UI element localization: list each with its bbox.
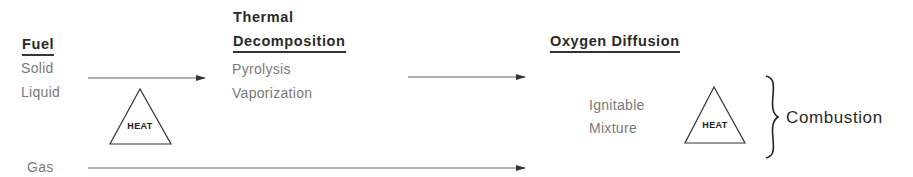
combustion-label: Combustion — [786, 109, 883, 126]
fuel-item-liquid: Liquid — [21, 85, 60, 99]
heat-label: HEAT — [127, 121, 153, 131]
fuel-item-gas: Gas — [27, 160, 54, 174]
decomposition-item-pyrolysis: Pyrolysis — [232, 62, 291, 76]
heat-label: HEAT — [702, 120, 728, 130]
heat-triangle-icon: HEAT — [685, 87, 745, 143]
diffusion-item-ignitable: Ignitable — [589, 98, 645, 112]
heat-triangle-icon: HEAT — [110, 89, 171, 144]
diagram-graphics: HEAT HEAT — [0, 0, 913, 177]
decomposition-heading-line2: Decomposition — [233, 34, 346, 53]
curly-brace-icon — [766, 76, 778, 158]
diffusion-item-mixture: Mixture — [589, 121, 637, 135]
diffusion-heading: Oxygen Diffusion — [550, 34, 680, 53]
fuel-heading: Fuel — [22, 37, 54, 56]
fuel-item-solid: Solid — [21, 61, 54, 75]
decomposition-heading-line1: Thermal — [233, 10, 294, 25]
decomposition-item-vaporization: Vaporization — [232, 86, 312, 100]
